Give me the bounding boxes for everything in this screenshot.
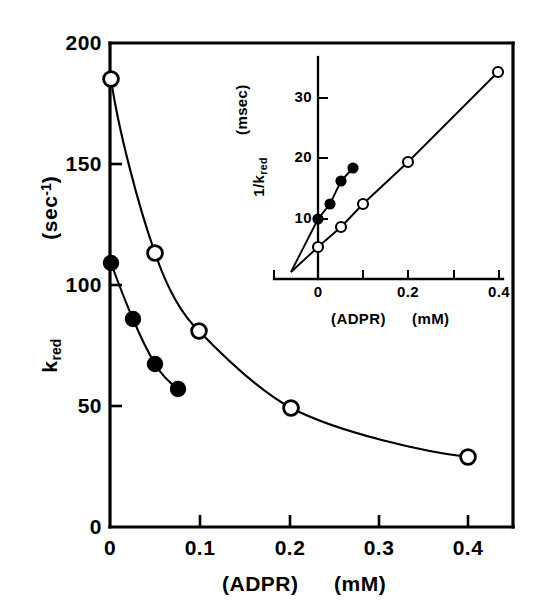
inset-y-axis-label-numerator: 1/k <box>250 175 267 197</box>
inset-y-axis-label-red-subscript: red <box>257 157 269 175</box>
x-tick-label-0.3: 0.3 <box>349 536 409 560</box>
y-axis-units-exponent: -1 <box>38 183 54 195</box>
y-tick-label-100: 100 <box>38 273 102 297</box>
x-tick-label-0: 0 <box>80 536 140 560</box>
x-axis-label-adpr: (ADPR) <box>222 572 299 596</box>
inset-x-axis-label-unit: (mM) <box>412 310 449 327</box>
x-tick-label-0.2: 0.2 <box>260 536 320 560</box>
x-tick-label-0.4: 0.4 <box>438 536 498 560</box>
x-axis-label-unit: (mM) <box>334 572 386 596</box>
inset-x-tick-label-0.4: 0.4 <box>477 283 521 300</box>
series-filled-circle-curve <box>111 263 178 389</box>
inset-x-axis-label-adpr: (ADPR) <box>331 310 386 327</box>
y-axis-units-close: ) <box>38 176 61 184</box>
inset-x-ticks <box>274 270 499 279</box>
figure-container: 200 150 100 50 0 0 0.1 0.2 0.3 0.4 (ADPR… <box>0 0 539 616</box>
inset-y-axis-label-units: (msec) <box>233 84 250 135</box>
inset-y-axis-label-inv-kred: 1/kred <box>233 157 286 215</box>
y-axis-label-kred: kred <box>14 339 88 398</box>
y-tick-label-150: 150 <box>38 152 102 176</box>
y-axis-label-red-subscript: red <box>48 339 64 361</box>
y-axis-label-units: (sec-1) <box>14 176 86 265</box>
inset-y-tick-label-30: 30 <box>268 88 312 105</box>
inset-x-tick-label-0: 0 <box>296 283 340 300</box>
y-tick-label-200: 200 <box>38 31 102 55</box>
x-tick-label-0.1: 0.1 <box>170 536 230 560</box>
inset-x-tick-label-0.2: 0.2 <box>386 283 430 300</box>
y-axis-units-open: (sec <box>38 196 61 240</box>
y-axis-label-k: k <box>38 360 61 372</box>
main-x-ticks <box>200 515 468 527</box>
inset-series-open-line <box>291 72 498 272</box>
